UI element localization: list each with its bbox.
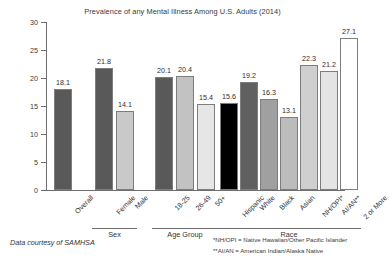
x-axis-label-overall: Overall: [74, 194, 96, 216]
y-axis-tick-label: 5: [0, 158, 38, 167]
bar-value-label: 18.1: [56, 78, 70, 87]
x-axis-label-asian: Asian: [298, 194, 316, 212]
bar-value-label: 15.4: [199, 93, 213, 102]
y-axis-tick: [41, 22, 46, 23]
bar-value-label: 21.8: [97, 57, 111, 66]
x-axis-label-18-25: 18-25: [173, 194, 191, 212]
bar-18-25[interactable]: [155, 77, 173, 190]
x-axis-label-50: 50+: [214, 194, 228, 208]
bar-2-or-more[interactable]: [340, 38, 358, 190]
bar-asian[interactable]: [280, 117, 298, 190]
x-axis-label-male: Male: [134, 194, 151, 211]
bar-value-label: 22.3: [302, 54, 316, 63]
bar-white[interactable]: [240, 82, 258, 190]
x-axis-label-black: Black: [278, 194, 296, 212]
y-axis-tick-label: 15: [0, 102, 38, 111]
bar-male[interactable]: [116, 111, 134, 190]
y-axis-tick-label: 25: [0, 46, 38, 55]
bar-value-label: 19.2: [242, 71, 256, 80]
source-note: Data courtesy of SAMHSA: [10, 238, 95, 247]
group-label-sex: Sex: [108, 230, 121, 239]
chart-title: Prevalence of any Mental Illness Among U…: [0, 7, 365, 16]
bar-ai-an[interactable]: [320, 71, 338, 190]
y-axis-tick-label: 0: [0, 186, 38, 195]
bar-value-label: 20.1: [157, 66, 171, 75]
group-rule: [92, 228, 137, 229]
y-axis-tick: [41, 162, 46, 163]
bar-hispanic[interactable]: [220, 103, 238, 190]
bar-value-label: 13.1: [282, 106, 296, 115]
footnote-nhopi: *NH/OPI = Native Hawaiian/Other Pacific …: [213, 236, 347, 243]
y-axis-tick: [41, 106, 46, 107]
bar-female[interactable]: [95, 68, 113, 190]
bar-value-label: 20.4: [178, 65, 192, 74]
y-axis-tick: [41, 78, 46, 79]
group-rule: [217, 228, 361, 229]
bar-black[interactable]: [260, 99, 278, 190]
x-axis-label-2-or-more: 2 or More: [362, 194, 389, 221]
bar-value-label: 27.1: [342, 27, 356, 36]
y-axis-tick-label: 20: [0, 74, 38, 83]
y-axis-tick-label: 10: [0, 130, 38, 139]
y-axis-tick: [41, 134, 46, 135]
bar-value-label: 16.3: [262, 88, 276, 97]
plot-area: [47, 22, 345, 190]
bar-value-label: 21.2: [322, 60, 336, 69]
bar-value-label: 15.6: [222, 92, 236, 101]
x-axis-label-nh-opi: NH/OPI*: [321, 194, 346, 219]
x-axis-line: [46, 190, 345, 191]
bar-value-label: 14.1: [118, 100, 132, 109]
y-axis-tick: [41, 190, 46, 191]
group-rule: [152, 228, 218, 229]
bar-26-49[interactable]: [176, 76, 194, 190]
x-axis-label-26-49: 26-49: [194, 194, 212, 212]
group-label-age-group: Age Group: [167, 230, 202, 239]
bar-50[interactable]: [197, 104, 215, 190]
y-axis-tick: [41, 50, 46, 51]
bar-nh-opi[interactable]: [300, 65, 318, 190]
bar-overall[interactable]: [54, 89, 72, 190]
y-axis-tick-label: 30: [0, 18, 38, 27]
footnote-aian: **AI/AN = American Indian/Alaska Native: [213, 247, 323, 254]
